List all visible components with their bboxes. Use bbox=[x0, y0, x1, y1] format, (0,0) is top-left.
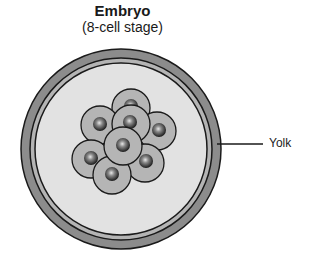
embryo-diagram bbox=[0, 0, 309, 259]
yolk-label: Yolk bbox=[269, 136, 291, 150]
cell bbox=[104, 127, 142, 165]
